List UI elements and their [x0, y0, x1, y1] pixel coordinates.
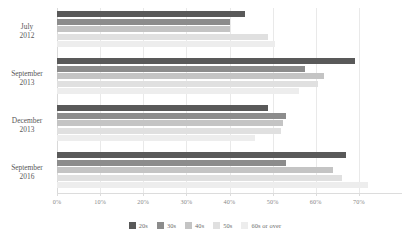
category-label-line: 2012: [0, 31, 54, 40]
legend-swatch-icon: [157, 222, 164, 229]
category-label: September2016: [0, 163, 54, 181]
tick-mark: [143, 193, 144, 196]
bar-20s[interactable]: [57, 58, 355, 64]
bar-row: [57, 105, 402, 111]
bar-row: [57, 152, 402, 158]
bar-40s[interactable]: [57, 73, 324, 79]
bar-row: [57, 26, 402, 32]
bar-row: [57, 81, 402, 87]
bar-row: [57, 113, 402, 119]
bar-row: [57, 120, 402, 126]
legend-item[interactable]: 60s or over: [241, 222, 281, 229]
tick-label-50%: 50%: [256, 198, 290, 205]
legend-item[interactable]: 50s: [213, 222, 232, 229]
bar-50s[interactable]: [57, 128, 281, 134]
bar-60s-or-over[interactable]: [57, 182, 368, 188]
bar-row: [57, 19, 402, 25]
legend-item[interactable]: 20s: [129, 222, 148, 229]
tick-label-40%: 40%: [213, 198, 247, 205]
category-label-line: July: [0, 22, 54, 31]
tick-label-20%: 20%: [126, 198, 160, 205]
bar-20s[interactable]: [57, 152, 346, 158]
category-label: December2013: [0, 116, 54, 134]
bar-50s[interactable]: [57, 175, 342, 181]
tick-label-60%: 60%: [299, 198, 333, 205]
legend-item[interactable]: 30s: [157, 222, 176, 229]
bar-row: [57, 73, 402, 79]
bar-row: [57, 167, 402, 173]
bar-30s[interactable]: [57, 19, 230, 25]
tick-mark: [57, 193, 58, 196]
bar-40s[interactable]: [57, 120, 283, 126]
legend-label: 40s: [195, 222, 204, 229]
tick-mark: [273, 193, 274, 196]
bar-row: [57, 88, 402, 94]
legend-swatch-icon: [241, 222, 248, 229]
bar-row: [57, 11, 402, 17]
bar-60s-or-over[interactable]: [57, 135, 255, 141]
bar-30s[interactable]: [57, 66, 305, 72]
bar-row: [57, 135, 402, 141]
legend-swatch-icon: [213, 222, 220, 229]
bar-group: [57, 58, 402, 96]
category-label-line: 2016: [0, 172, 54, 181]
bar-row: [57, 182, 402, 188]
bar-40s[interactable]: [57, 167, 333, 173]
category-label: September2013: [0, 69, 54, 87]
tick-mark: [186, 193, 187, 196]
tick-mark: [230, 193, 231, 196]
tick-mark: [316, 193, 317, 196]
bar-row: [57, 66, 402, 72]
bar-group: [57, 11, 402, 49]
tick-mark: [359, 193, 360, 196]
legend-item[interactable]: 40s: [185, 222, 204, 229]
category-label-line: September: [0, 163, 54, 172]
category-label-line: 2013: [0, 125, 54, 134]
plot-area: [57, 8, 402, 193]
legend-label: 30s: [167, 222, 176, 229]
category-label-line: September: [0, 69, 54, 78]
category-label-line: 2013: [0, 78, 54, 87]
tick-label-70%: 70%: [342, 198, 376, 205]
bar-20s[interactable]: [57, 105, 268, 111]
legend-label: 50s: [223, 222, 232, 229]
bar-row: [57, 128, 402, 134]
legend-swatch-icon: [129, 222, 136, 229]
bar-row: [57, 41, 402, 47]
bar-row: [57, 175, 402, 181]
bar-50s[interactable]: [57, 34, 268, 40]
bar-50s[interactable]: [57, 81, 318, 87]
chart-legend: 20s30s40s50s60s or over: [0, 222, 410, 229]
legend-swatch-icon: [185, 222, 192, 229]
tick-label-10%: 10%: [83, 198, 117, 205]
legend-label: 60s or over: [251, 222, 281, 229]
bar-60s-or-over[interactable]: [57, 88, 299, 94]
bar-group: [57, 105, 402, 143]
bar-chart: July2012September2013December2013Septemb…: [0, 0, 410, 241]
category-label: July2012: [0, 22, 54, 40]
bar-row: [57, 58, 402, 64]
bar-20s[interactable]: [57, 11, 245, 17]
bar-40s[interactable]: [57, 26, 230, 32]
tick-label-30%: 30%: [169, 198, 203, 205]
bar-30s[interactable]: [57, 160, 286, 166]
bar-row: [57, 34, 402, 40]
bar-60s-or-over[interactable]: [57, 41, 275, 47]
bar-30s[interactable]: [57, 113, 286, 119]
category-label-line: December: [0, 116, 54, 125]
tick-mark: [100, 193, 101, 196]
legend-label: 20s: [139, 222, 148, 229]
tick-label-0%: 0%: [40, 198, 74, 205]
bar-group: [57, 152, 402, 190]
bar-row: [57, 160, 402, 166]
